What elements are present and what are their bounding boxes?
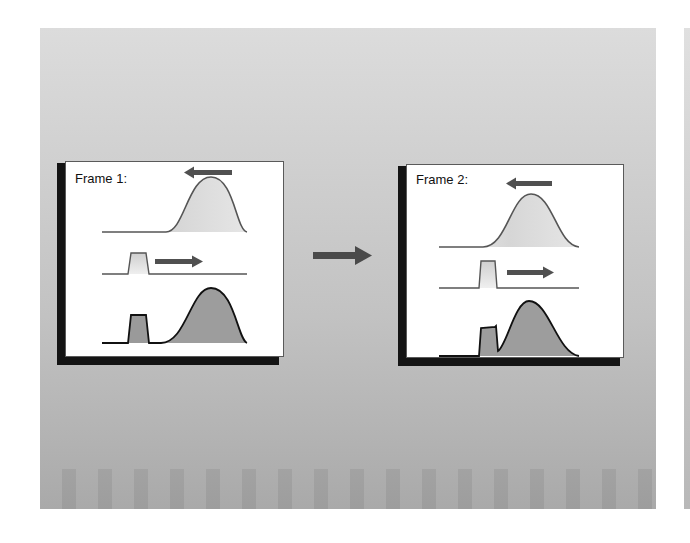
frame-2-top-gaussian bbox=[439, 194, 579, 247]
frame-1-panel: Frame 1: bbox=[57, 161, 284, 365]
transition-right-arrow-icon bbox=[311, 245, 375, 267]
frame-1-box: Frame 1: bbox=[65, 161, 284, 357]
frame-2-box: Frame 2: bbox=[406, 164, 624, 358]
frame-2-panel: Frame 2: bbox=[398, 164, 624, 366]
frame-1-top-gaussian bbox=[102, 177, 247, 232]
frame-2-combined-waveform bbox=[439, 301, 579, 356]
right-arrow-icon bbox=[507, 267, 554, 279]
next-slide-edge bbox=[684, 28, 690, 509]
slide-footer-texture bbox=[40, 469, 656, 509]
frame-1-combined-waveform bbox=[102, 288, 247, 343]
frame-2-waveforms bbox=[407, 165, 625, 359]
right-arrow-icon bbox=[155, 256, 203, 268]
left-arrow-icon bbox=[506, 178, 552, 190]
frame-1-waveforms bbox=[66, 162, 285, 358]
